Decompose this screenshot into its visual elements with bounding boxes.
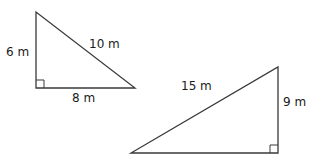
large-hypotenuse-label: 15 m (181, 79, 212, 93)
large-vertical-leg-label: 9 m (283, 95, 306, 109)
right-angle-marker-icon (36, 80, 44, 88)
right-angle-marker-icon (270, 145, 278, 153)
small-vertical-leg-label: 6 m (6, 45, 29, 59)
small-hypotenuse-label: 10 m (89, 37, 120, 51)
small-triangle: 6 m 10 m 8 m (6, 12, 135, 105)
small-triangle-outline (36, 12, 135, 88)
large-triangle: 15 m 9 m (131, 67, 306, 153)
triangles-diagram: 6 m 10 m 8 m 15 m 9 m (0, 0, 313, 161)
small-horizontal-leg-label: 8 m (72, 91, 95, 105)
